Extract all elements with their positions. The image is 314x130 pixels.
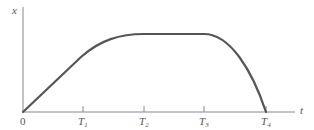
- tick-label-t4: T4: [261, 115, 271, 129]
- tick-label-t1: T1: [78, 115, 88, 129]
- chart: x t 0 T1 T2 T3 T4: [0, 0, 314, 130]
- curve-x-of-t: [23, 34, 266, 112]
- x-axis-label: t: [300, 104, 304, 116]
- tick-label-0: 0: [20, 115, 26, 127]
- tick-label-t3: T3: [199, 115, 209, 129]
- tick-label-t2: T2: [139, 115, 149, 129]
- y-axis-label: x: [11, 4, 17, 16]
